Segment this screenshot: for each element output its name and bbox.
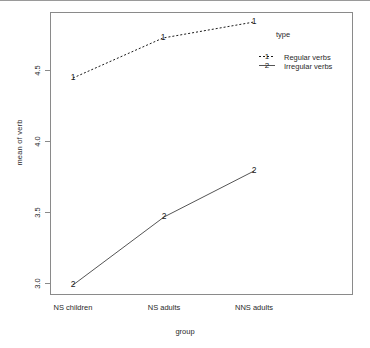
x-tick-label-ns-children: NS children xyxy=(28,303,118,312)
data-point-marker: 1 xyxy=(66,73,80,82)
data-point-marker: 1 xyxy=(247,17,261,26)
y-tick-label-3-5: 3.5 xyxy=(33,202,42,224)
data-point-marker: 2 xyxy=(66,280,80,289)
x-tick-label-nns-adults: NNS adults xyxy=(209,303,299,312)
y-tick-label-4-0: 4.0 xyxy=(33,131,42,153)
legend-title: type xyxy=(276,30,290,39)
legend-key-irregular: 2 xyxy=(261,61,273,70)
chart-root: mean of verb 3.0 3.5 4.0 4.5 NS children… xyxy=(0,0,370,348)
data-point-marker: 1 xyxy=(156,33,170,42)
top-divider-rule xyxy=(0,0,370,1)
y-tick-label-3-0: 3.0 xyxy=(33,273,42,295)
x-tick-label-ns-adults: NS adults xyxy=(119,303,209,312)
data-point-marker: 2 xyxy=(247,166,261,175)
y-axis-label: mean of verb xyxy=(15,98,24,188)
legend-key-regular: 1 xyxy=(261,52,273,61)
legend-label-regular-verbs: Regular verbs xyxy=(284,53,331,62)
legend-label-irregular-verbs: Irregular verbs xyxy=(284,62,332,71)
y-tick-label-4-5: 4.5 xyxy=(33,60,42,82)
data-point-marker: 2 xyxy=(157,212,171,221)
x-axis-label: group xyxy=(0,327,370,336)
